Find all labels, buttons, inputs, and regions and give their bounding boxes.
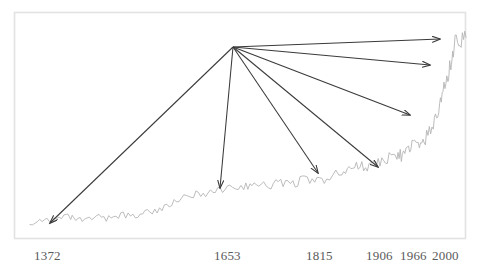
data-series-line — [30, 31, 466, 225]
x-axis-label-1815: 1815 — [306, 249, 333, 262]
arrow-1815 — [233, 47, 318, 173]
x-axis-label-1906: 1906 — [366, 249, 393, 262]
arrow-1966 — [233, 47, 410, 115]
arrow-2000 — [233, 39, 440, 47]
x-axis-label-1372: 1372 — [34, 249, 61, 262]
x-axis-label-2000: 2000 — [432, 249, 459, 262]
arrow-1990 — [233, 47, 430, 65]
x-axis-label-1653: 1653 — [214, 249, 241, 262]
annotation-arrow-group — [50, 39, 440, 223]
x-axis-label-1966: 1966 — [400, 249, 427, 262]
arrow-1906 — [233, 47, 378, 167]
chart-canvas — [0, 0, 482, 272]
figure-root: 137216531815190619662000 — [0, 0, 482, 272]
arrow-1653 — [220, 47, 233, 188]
